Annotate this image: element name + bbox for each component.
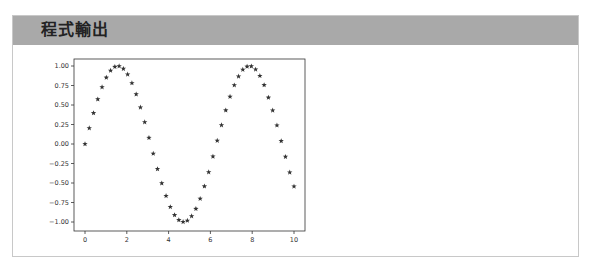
x-tick-label: 6 — [208, 236, 212, 244]
x-tick-label: 4 — [167, 236, 171, 244]
y-tick-label: 0.50 — [55, 101, 69, 109]
y-tick-label: −0.25 — [49, 160, 69, 168]
x-tick-label: 2 — [125, 236, 129, 244]
y-tick-label: 0.25 — [55, 121, 69, 129]
y-tick-label: −0.75 — [49, 199, 69, 207]
x-axis-ticks: 0246810 — [83, 231, 298, 244]
y-tick-label: 1.00 — [55, 62, 69, 70]
y-tick-label: 0.75 — [55, 82, 69, 90]
x-tick-label: 0 — [83, 236, 87, 244]
plot-axes — [74, 59, 305, 231]
x-tick-label: 10 — [290, 236, 298, 244]
y-tick-label: −1.00 — [49, 218, 69, 226]
sine-scatter-plot: 1.000.750.500.250.00−0.25−0.50−0.75−1.00… — [0, 0, 591, 271]
y-axis-ticks: 1.000.750.500.250.00−0.25−0.50−0.75−1.00 — [49, 62, 74, 226]
y-tick-label: 0.00 — [55, 140, 69, 148]
y-tick-label: −0.50 — [49, 179, 69, 187]
plot-frame — [74, 59, 305, 231]
x-tick-label: 8 — [250, 236, 254, 244]
